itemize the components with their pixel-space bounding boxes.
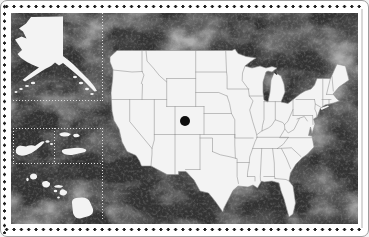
alaska-inset xyxy=(11,13,103,101)
perforation-dots-left xyxy=(2,3,7,234)
st-john-silhouette xyxy=(73,134,80,138)
perforation-dots-top xyxy=(3,4,363,9)
hawaiian-islands xyxy=(26,174,93,219)
puerto-rico-outlying-islets xyxy=(46,140,54,145)
st-croix-silhouette xyxy=(62,148,86,155)
puerto-rico-silhouette xyxy=(16,141,45,155)
hawaii-inset xyxy=(11,163,103,224)
location-marker xyxy=(180,116,190,126)
right-edge-line xyxy=(361,9,363,228)
aleutian-islands xyxy=(15,82,36,93)
virgin-islands-inset xyxy=(54,128,103,163)
map-board xyxy=(11,13,358,224)
perforation-dots-bottom xyxy=(3,227,363,232)
hawaii-big-island xyxy=(72,198,93,219)
st-thomas-silhouette xyxy=(59,132,71,136)
puerto-rico-inset xyxy=(13,128,54,163)
contiguous-us-map xyxy=(109,47,351,222)
us-landmass-outline xyxy=(110,49,349,217)
stamp-locator-map xyxy=(0,0,369,237)
alaska-silhouette xyxy=(15,17,97,92)
